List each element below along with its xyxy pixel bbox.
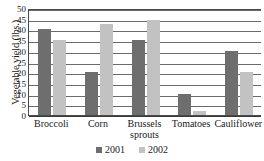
y-axis-tick-label: 25 — [12, 58, 26, 67]
bar — [240, 72, 253, 115]
plot-area — [28, 9, 261, 116]
x-axis-category-label: Broccoli — [28, 118, 75, 129]
bar — [178, 94, 191, 115]
gridline — [29, 116, 261, 117]
bar-group — [38, 10, 66, 115]
y-axis-tick-label: 10 — [12, 90, 26, 99]
x-axis-category-label: Brussels sprouts — [121, 118, 168, 140]
y-axis-tick-label: 40 — [12, 26, 26, 35]
legend-label: 2002 — [148, 145, 168, 155]
bar — [193, 111, 206, 115]
bar-group — [178, 10, 206, 115]
bars-layer — [29, 10, 261, 115]
y-axis-tick-labels: 05101520253035404550 — [12, 9, 26, 116]
legend-entry: 2001 — [96, 145, 125, 155]
bar-chart-figure: Vegetable yield (lbs.) 05101520253035404… — [0, 0, 264, 161]
bar-group — [225, 10, 253, 115]
legend-label: 2001 — [105, 145, 125, 155]
y-axis-tick-label: 50 — [12, 5, 26, 14]
bar — [100, 24, 113, 115]
x-axis-category-labels: BroccoliCornBrussels sproutsTomatoesCaul… — [28, 118, 261, 144]
bar — [85, 72, 98, 115]
bar — [53, 40, 66, 115]
y-axis-tick-label: 30 — [12, 47, 26, 56]
legend-entry: 2002 — [139, 145, 168, 155]
y-axis-tick-label: 15 — [12, 79, 26, 88]
bar-group — [132, 10, 160, 115]
bar — [225, 51, 238, 115]
bar — [132, 40, 145, 115]
x-axis-category-label: Cauliflower — [214, 118, 261, 129]
chart-legend: 20012002 — [0, 145, 264, 155]
y-axis-tick-label: 5 — [12, 101, 26, 110]
y-axis-tick-label: 35 — [12, 37, 26, 46]
bar — [38, 29, 51, 115]
y-axis-tick-label: 20 — [12, 69, 26, 78]
y-axis-tick-label: 45 — [12, 15, 26, 24]
bar — [147, 20, 160, 115]
legend-swatch-icon — [96, 147, 102, 153]
y-axis-tick-label: 0 — [12, 112, 26, 121]
bar-group — [85, 10, 113, 115]
legend-swatch-icon — [139, 147, 145, 153]
x-axis-category-label: Tomatoes — [168, 118, 215, 129]
x-axis-category-label: Corn — [75, 118, 122, 129]
